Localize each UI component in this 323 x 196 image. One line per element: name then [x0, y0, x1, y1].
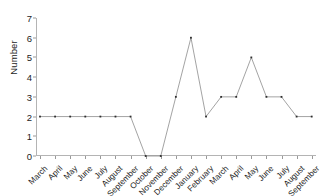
series-point	[281, 96, 283, 98]
x-tick-mark	[297, 156, 298, 159]
series-point	[311, 116, 313, 118]
x-tick-label: June	[257, 164, 276, 183]
x-tick-mark	[176, 156, 177, 159]
x-tick-mark	[206, 156, 207, 159]
x-tick-mark	[236, 156, 237, 159]
series-point	[54, 116, 56, 118]
series-point	[39, 116, 41, 118]
x-tick-mark	[55, 156, 56, 159]
line-chart: Number 01234567 MarchAprilMayJuneJulyAug…	[0, 0, 323, 196]
x-tick-mark	[266, 156, 267, 159]
y-tick-label: 7	[27, 13, 32, 24]
x-tick-mark	[70, 156, 71, 159]
x-tick-mark	[100, 156, 101, 159]
data-series	[36, 18, 316, 156]
y-tick-label: 6	[27, 32, 32, 43]
y-tick-label: 1	[27, 131, 32, 142]
y-axis-title: Number	[8, 23, 19, 93]
series-point	[220, 96, 222, 98]
series-point	[205, 116, 207, 118]
y-tick-label: 4	[27, 72, 32, 83]
series-point	[145, 155, 147, 157]
y-tick-label: 5	[27, 52, 32, 63]
series-point	[99, 116, 101, 118]
series-point	[115, 116, 117, 118]
series-point	[266, 96, 268, 98]
series-point	[160, 155, 162, 157]
x-tick-mark	[191, 156, 192, 159]
x-tick-mark	[282, 156, 283, 159]
series-point	[84, 116, 86, 118]
plot-area: 01234567 MarchAprilMayJuneJulyAugustSept…	[36, 18, 316, 156]
y-tick-label: 3	[27, 91, 32, 102]
x-tick-mark	[251, 156, 252, 159]
y-tick-label: 0	[27, 151, 32, 162]
series-point	[250, 57, 252, 59]
x-tick-mark	[40, 156, 41, 159]
x-tick-mark	[312, 156, 313, 159]
x-tick-mark	[115, 156, 116, 159]
x-tick-mark	[85, 156, 86, 159]
series-point	[175, 96, 177, 98]
series-point	[130, 116, 132, 118]
series-point	[235, 96, 237, 98]
x-tick-mark	[131, 156, 132, 159]
x-tick-label: April	[47, 164, 65, 182]
series-point	[296, 116, 298, 118]
series-point	[69, 116, 71, 118]
series-point	[190, 37, 192, 39]
y-tick-label: 2	[27, 111, 32, 122]
x-tick-mark	[221, 156, 222, 159]
x-tick-label: April	[228, 164, 246, 182]
